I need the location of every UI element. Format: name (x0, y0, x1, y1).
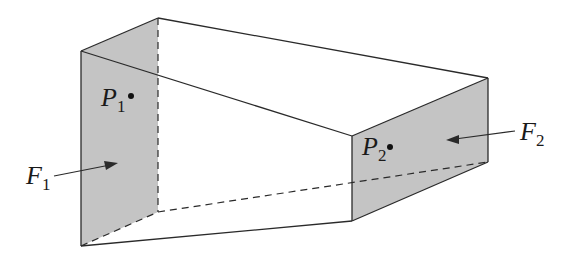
flow-tube-diagram: P1 P2 F1 F2 (0, 0, 571, 261)
face-f1 (81, 18, 158, 246)
point-p1 (128, 93, 134, 99)
point-p2 (387, 144, 393, 150)
label-f2: F2 (519, 117, 544, 150)
label-f1: F1 (25, 161, 50, 194)
